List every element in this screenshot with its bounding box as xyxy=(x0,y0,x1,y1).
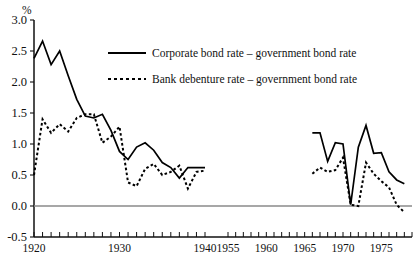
chart-series xyxy=(34,41,404,212)
series-line-1-segment-1 xyxy=(34,41,205,178)
x-axis-tick-label: 1960 xyxy=(255,242,278,254)
x-axis-tick-label: 1955 xyxy=(217,242,240,254)
chart-legend: Corporate bond rate – government bond ra… xyxy=(108,47,357,86)
legend-label-debenture: Bank debenture rate – government bond ra… xyxy=(152,73,357,86)
legend-label-corporate: Corporate bond rate – government bond ra… xyxy=(152,47,356,60)
x-axis-tick-label: 1930 xyxy=(108,242,131,254)
x-axis-tick-label: 1965 xyxy=(293,242,316,254)
y-axis-tick-label: 2.0 xyxy=(11,75,27,89)
x-axis-tick-label: 1940 xyxy=(194,242,217,254)
y-axis-tick-label: 2.5 xyxy=(11,44,27,58)
series-line-2-segment-2 xyxy=(312,158,404,213)
x-axis-tick-label: 1975 xyxy=(370,242,393,254)
interest-rate-spread-line-chart: Corporate bond rate – government bond ra… xyxy=(0,0,419,268)
chart-container: Corporate bond rate – government bond ra… xyxy=(0,0,419,268)
x-axis-tick-label: 1920 xyxy=(23,242,46,254)
y-axis-tick-label: 0.0 xyxy=(11,199,27,213)
x-axis-tick-label: 1970 xyxy=(332,242,355,254)
y-axis-unit-label: % xyxy=(22,4,32,16)
y-axis-tick-label: 0.5 xyxy=(11,168,27,182)
y-axis-tick-label: 1.5 xyxy=(11,106,27,120)
y-axis-tick-label: 1.0 xyxy=(11,137,27,151)
